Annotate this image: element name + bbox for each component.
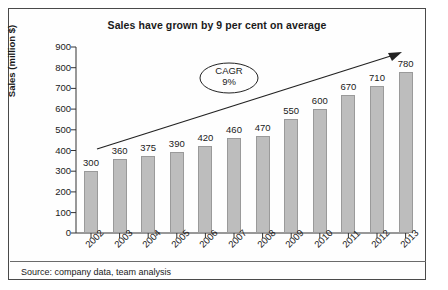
bar-2002[interactable] (84, 171, 98, 233)
bar-2013[interactable] (399, 72, 413, 233)
value-label-2002: 300 (74, 158, 108, 168)
value-label-2012: 710 (360, 73, 394, 83)
footer-divider (10, 261, 426, 262)
bar-2004[interactable] (141, 156, 155, 234)
cagr-label-value: 9% (199, 76, 259, 87)
bar-2006[interactable] (198, 146, 212, 233)
value-label-2010: 600 (303, 96, 337, 106)
value-label-2009: 550 (274, 106, 308, 116)
value-label-2011: 670 (331, 82, 365, 92)
axis-lines (9, 9, 427, 281)
bar-2011[interactable] (341, 95, 355, 234)
bar-2009[interactable] (284, 119, 298, 233)
bar-2003[interactable] (113, 159, 127, 233)
bar-2008[interactable] (256, 136, 270, 233)
cagr-label-primary: CAGR (199, 65, 259, 76)
bar-2012[interactable] (370, 86, 384, 233)
plot-area: Sales (million $) 900 800 700 600 500 40… (9, 9, 427, 281)
value-label-2013: 780 (389, 59, 423, 69)
bar-2007[interactable] (227, 138, 241, 233)
bar-2005[interactable] (170, 152, 184, 233)
chart-frame: Sales have grown by 9 per cent on averag… (8, 8, 426, 280)
source-note: Source: company data, team analysis (21, 267, 171, 277)
bar-2010[interactable] (313, 109, 327, 233)
value-label-2006: 420 (188, 133, 222, 143)
value-label-2008: 470 (246, 123, 280, 133)
